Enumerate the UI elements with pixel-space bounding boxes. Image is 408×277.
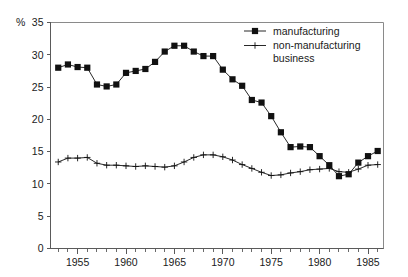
y-tick-label: 30: [32, 49, 44, 61]
data-point-marker: [152, 163, 158, 169]
data-point-marker: [297, 168, 303, 174]
data-point-marker: [181, 159, 187, 165]
plot-frame-box: [51, 23, 384, 249]
data-point-marker: [365, 162, 371, 168]
data-point-marker: [268, 172, 274, 178]
x-tick-label: 1985: [356, 256, 380, 268]
y-tick-label: 10: [32, 178, 44, 190]
data-point-marker: [65, 61, 71, 67]
data-point-marker: [142, 163, 148, 169]
data-point-marker: [307, 144, 313, 150]
data-point-marker: [200, 152, 206, 158]
x-tick-label: 1965: [163, 256, 187, 268]
data-point-marker: [55, 65, 61, 71]
data-point-marker: [316, 166, 322, 172]
data-point-marker: [258, 99, 264, 105]
data-point-marker: [133, 68, 139, 74]
data-point-marker: [84, 154, 90, 160]
x-tick-label: 1955: [66, 256, 90, 268]
data-point-marker: [229, 157, 235, 163]
data-point-marker: [249, 165, 255, 171]
series-line-filled-square: [58, 46, 377, 176]
data-point-marker: [229, 76, 235, 82]
data-point-marker: [162, 164, 168, 170]
data-point-marker: [94, 81, 100, 87]
data-point-marker: [142, 66, 148, 72]
data-point-marker: [374, 161, 380, 167]
y-axis-ticks: 05101520253035: [32, 16, 51, 254]
legend-label-line2: business: [273, 52, 314, 64]
data-point-marker: [74, 155, 80, 161]
data-point-marker: [249, 97, 255, 103]
legend-label: manufacturing: [273, 25, 340, 37]
legend-item-2: non-manufacturingbusiness: [244, 39, 361, 64]
data-point-marker: [123, 70, 129, 76]
data-point-marker: [191, 48, 197, 54]
y-tick-label: 25: [32, 81, 44, 93]
y-tick-label: 15: [32, 145, 44, 157]
data-point-marker: [132, 163, 138, 169]
x-tick-label: 1960: [114, 256, 138, 268]
legend-item-1: manufacturing: [244, 25, 340, 37]
data-point-marker: [181, 43, 187, 49]
data-point-marker: [210, 152, 216, 158]
data-point-marker: [171, 43, 177, 49]
data-point-marker: [239, 161, 245, 167]
chart-figure: 05101520253035 1955196019651970197519801…: [0, 0, 408, 277]
data-point-marker: [355, 160, 361, 166]
chart-plot-area: 05101520253035 1955196019651970197519801…: [0, 0, 408, 277]
data-point-marker: [278, 129, 284, 135]
y-tick-label: 35: [32, 16, 44, 28]
series-1: [55, 43, 381, 180]
data-point-marker: [104, 83, 110, 89]
data-point-marker: [113, 81, 119, 87]
data-point-marker: [84, 65, 90, 71]
data-point-marker: [210, 53, 216, 59]
data-point-marker: [287, 170, 293, 176]
data-point-marker: [268, 113, 274, 119]
x-tick-label: 1975: [260, 256, 284, 268]
data-point-marker: [65, 155, 71, 161]
x-axis-ticks: 1955196019651970197519801985: [58, 249, 380, 268]
y-tick-label: 20: [32, 113, 44, 125]
data-point-marker: [55, 159, 61, 165]
data-point-marker: [94, 160, 100, 166]
data-point-marker: [307, 167, 313, 173]
data-point-marker: [278, 172, 284, 178]
data-point-marker: [287, 144, 293, 150]
x-tick-label: 1970: [211, 256, 235, 268]
data-point-marker: [113, 162, 119, 168]
y-tick-label: 0: [38, 242, 44, 254]
chart-legend: manufacturingnon-manufacturingbusiness: [244, 25, 361, 64]
legend-marker-square: [252, 28, 258, 34]
data-point-marker: [239, 83, 245, 89]
axis-lines: [51, 23, 384, 249]
legend-label: non-manufacturing: [273, 39, 361, 51]
data-point-marker: [375, 148, 381, 154]
data-point-marker: [258, 169, 264, 175]
data-point-marker: [297, 143, 303, 149]
data-point-marker: [220, 154, 226, 160]
y-axis-unit-label: %: [16, 16, 25, 28]
data-point-marker: [152, 59, 158, 65]
data-point-marker: [171, 163, 177, 169]
data-point-marker: [75, 64, 81, 70]
data-series: [55, 43, 381, 180]
x-tick-label: 1980: [308, 256, 332, 268]
data-point-marker: [317, 153, 323, 159]
data-point-marker: [162, 48, 168, 54]
legend-marker-plus: [252, 42, 258, 48]
plot-frame: [51, 23, 384, 249]
data-point-marker: [220, 67, 226, 73]
data-point-marker: [200, 53, 206, 59]
data-point-marker: [365, 153, 371, 159]
data-point-marker: [103, 162, 109, 168]
data-point-marker: [123, 163, 129, 169]
data-point-marker: [191, 154, 197, 160]
data-point-marker: [355, 166, 361, 172]
y-tick-label: 5: [38, 210, 44, 222]
